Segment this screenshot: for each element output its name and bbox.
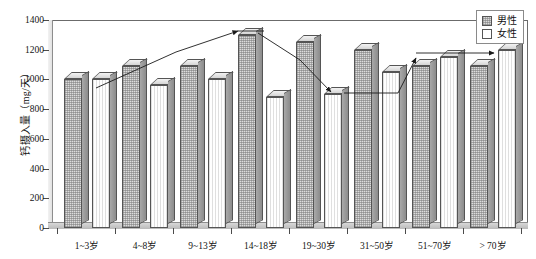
x-tick-mark-8 xyxy=(521,228,522,234)
legend-item-female: 女性 xyxy=(482,27,517,40)
x-tick-mark-7 xyxy=(463,228,464,234)
bar-male-31-50 xyxy=(354,50,372,228)
bar-female-9-13 xyxy=(208,79,226,228)
bar-side-face xyxy=(372,42,379,224)
legend-label-female: 女性 xyxy=(497,27,517,40)
bar-side-face xyxy=(400,64,407,224)
bar-front-face xyxy=(296,42,314,228)
bar-female-4-8 xyxy=(150,85,168,228)
bar-front-face xyxy=(498,50,516,228)
bar-front-face xyxy=(412,66,430,228)
y-tick-label-600: 600 xyxy=(4,135,44,144)
x-tick-mark-1 xyxy=(115,228,116,234)
bar-front-face xyxy=(208,79,226,228)
legend-label-male: 男性 xyxy=(497,14,517,27)
bar-male-9-13 xyxy=(180,66,198,228)
bar-side-face xyxy=(256,27,263,224)
bar-side-face xyxy=(110,71,117,224)
bar-female-51-70 xyxy=(440,57,458,228)
bar-female-14-18 xyxy=(266,97,284,228)
bar-side-face xyxy=(516,42,523,224)
y-tick-label-1400: 1400 xyxy=(4,16,44,25)
chart-legend: 男性 女性 xyxy=(476,10,524,44)
y-tick-label-800: 800 xyxy=(4,105,44,114)
bar-front-face xyxy=(354,50,372,228)
calcium-intake-bar-chart: 钙摄入量（mg/天） 1400 1200 1000 800 600 400 20… xyxy=(0,0,536,259)
bar-side-face xyxy=(140,58,147,224)
bar-front-face xyxy=(150,85,168,228)
x-tick-label-over-70: > 70岁 xyxy=(453,238,533,252)
x-tick-mark-2 xyxy=(173,228,174,234)
bar-front-face xyxy=(440,57,458,228)
bar-front-face xyxy=(92,79,110,228)
bar-front-face xyxy=(64,79,82,228)
y-tick-label-1200: 1200 xyxy=(4,46,44,55)
bar-front-face xyxy=(266,97,284,228)
x-tick-mark-6 xyxy=(405,228,406,234)
bar-side-face xyxy=(168,77,175,224)
legend-swatch-male-icon xyxy=(482,16,492,26)
x-tick-mark-5 xyxy=(347,228,348,234)
bar-side-face xyxy=(314,34,321,224)
y-tick-label-200: 200 xyxy=(4,194,44,203)
bar-male-14-18 xyxy=(238,35,256,228)
bar-male-51-70 xyxy=(412,66,430,228)
bar-front-face xyxy=(238,35,256,228)
bar-side-face xyxy=(198,58,205,224)
bar-female-over-70 xyxy=(498,50,516,228)
bar-side-face xyxy=(82,71,89,224)
bar-front-face xyxy=(470,66,488,228)
bar-front-face xyxy=(382,72,400,228)
y-tick-label-1000: 1000 xyxy=(4,75,44,84)
plot-left-wall xyxy=(48,20,53,228)
bar-male-4-8 xyxy=(122,66,140,228)
bar-male-over-70 xyxy=(470,66,488,228)
bar-male-1-3 xyxy=(64,79,82,228)
bar-side-face xyxy=(488,58,495,224)
bar-male-19-30 xyxy=(296,42,314,228)
bar-side-face xyxy=(226,71,233,224)
y-tick-label-400: 400 xyxy=(4,165,44,174)
bar-front-face xyxy=(122,66,140,228)
bar-front-face xyxy=(180,66,198,228)
x-tick-mark-4 xyxy=(289,228,290,234)
legend-item-male: 男性 xyxy=(482,14,517,27)
bar-female-31-50 xyxy=(382,72,400,228)
bar-side-face xyxy=(342,86,349,224)
bar-front-face xyxy=(324,94,342,228)
x-tick-mark-0 xyxy=(57,228,58,234)
bar-female-19-30 xyxy=(324,94,342,228)
bar-female-1-3 xyxy=(92,79,110,228)
x-tick-mark-3 xyxy=(231,228,232,234)
legend-swatch-female-icon xyxy=(482,29,492,39)
y-tick-label-0: 0 xyxy=(4,224,44,233)
bar-side-face xyxy=(430,58,437,224)
bar-side-face xyxy=(458,49,465,224)
bar-side-face xyxy=(284,89,291,224)
